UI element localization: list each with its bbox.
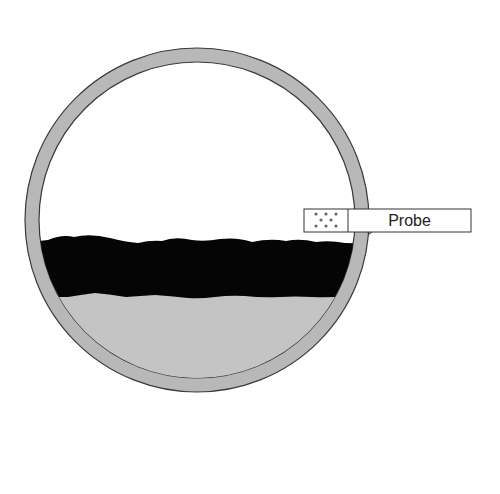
vessel-diagram (0, 0, 500, 494)
probe-label: Probe (348, 209, 471, 232)
dark-layer (30, 235, 372, 298)
